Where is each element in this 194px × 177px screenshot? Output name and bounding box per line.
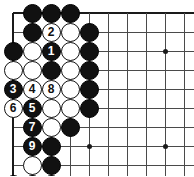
stone-black xyxy=(23,23,42,42)
stone-black xyxy=(4,175,23,177)
stone-move-5: 5 xyxy=(23,99,42,118)
stone-move-4: 4 xyxy=(23,80,42,99)
stone-white xyxy=(23,61,42,80)
stone-white xyxy=(61,61,80,80)
move-number-label: 3 xyxy=(10,83,17,95)
stone-move-6: 6 xyxy=(4,99,23,118)
stone-white xyxy=(23,156,42,175)
stone-black xyxy=(42,175,61,177)
stone-black xyxy=(23,4,42,23)
stone-white xyxy=(61,99,80,118)
stone-white xyxy=(42,99,61,118)
stone-black xyxy=(42,137,61,156)
move-number-label: 7 xyxy=(29,121,36,133)
stone-white xyxy=(61,42,80,61)
stone-white xyxy=(42,118,61,137)
stone-white xyxy=(23,42,42,61)
go-board-diagram: 213486579 xyxy=(0,0,194,176)
move-number-label: 4 xyxy=(29,83,36,95)
stone-black xyxy=(80,80,99,99)
stone-black xyxy=(61,4,80,23)
stone-black xyxy=(4,42,23,61)
move-number-label: 1 xyxy=(48,45,55,57)
stone-move-1: 1 xyxy=(42,42,61,61)
stone-black xyxy=(42,61,61,80)
stone-move-8: 8 xyxy=(42,80,61,99)
move-number-label: 6 xyxy=(10,102,17,114)
stone-white xyxy=(61,23,80,42)
stone-black xyxy=(23,175,42,177)
stone-move-7: 7 xyxy=(23,118,42,137)
stone-move-9: 9 xyxy=(23,137,42,156)
stone-black xyxy=(42,4,61,23)
stone-white xyxy=(61,80,80,99)
move-number-label: 2 xyxy=(48,26,55,38)
move-number-label: 8 xyxy=(48,83,55,95)
stone-black xyxy=(42,156,61,175)
stone-white xyxy=(4,61,23,80)
stone-black xyxy=(80,23,99,42)
move-number-label: 5 xyxy=(29,102,36,114)
stone-black xyxy=(61,118,80,137)
stone-layer: 213486579 xyxy=(0,0,194,176)
stone-black xyxy=(80,61,99,80)
move-number-label: 9 xyxy=(29,140,36,152)
stone-move-2: 2 xyxy=(42,23,61,42)
stone-black xyxy=(80,99,99,118)
stone-move-3: 3 xyxy=(4,80,23,99)
stone-black xyxy=(80,42,99,61)
